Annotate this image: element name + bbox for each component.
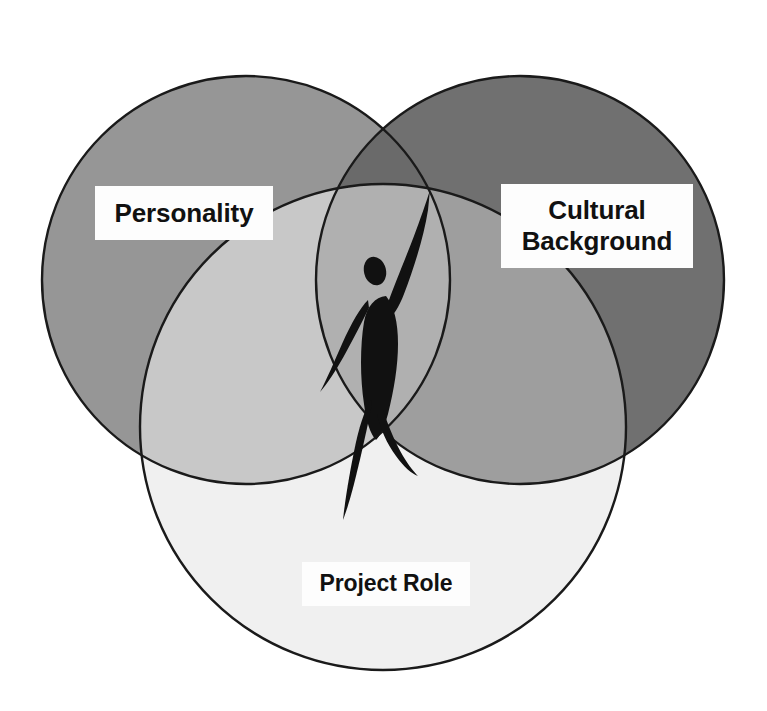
label-cultural-background: Cultural Background <box>501 184 693 268</box>
label-project-role: Project Role <box>302 562 470 606</box>
label-personality-text: Personality <box>114 198 253 229</box>
label-personality: Personality <box>95 186 273 240</box>
label-cultural-line1: Cultural <box>548 195 645 226</box>
label-cultural-line2: Background <box>522 226 673 257</box>
label-project-role-text: Project Role <box>319 570 452 597</box>
venn-diagram: Personality Cultural Background Project … <box>0 0 767 711</box>
